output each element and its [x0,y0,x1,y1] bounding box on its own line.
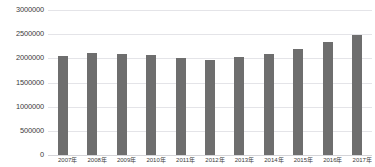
bar [117,54,127,155]
bar [293,49,303,155]
x-axis-tick-label: 2015年 [290,156,316,164]
y-axis-tick-label: 2000000 [0,54,44,62]
x-axis-tick-label: 2011年 [173,156,199,164]
bar [205,60,215,155]
x-axis-tick-label: 2014年 [261,156,287,164]
x-axis-tick-label: 2008年 [84,156,110,164]
bar [323,42,333,155]
y-axis-tick-label: 1500000 [0,79,44,87]
y-axis-tick-label: 2500000 [0,30,44,38]
x-axis-tick-label: 2009年 [114,156,140,164]
y-axis-tick-label: 0 [0,151,44,159]
bar-series [48,10,372,155]
bar [146,55,156,155]
y-axis-labels: 3000000250000020000001500000100000050000… [0,0,44,167]
x-axis-tick-label: 2010年 [143,156,169,164]
bar [352,35,362,155]
y-axis-tick-label: 1000000 [0,103,44,111]
bar [176,58,186,155]
bar-chart: 3000000250000020000001500000100000050000… [0,0,375,167]
bar [264,54,274,155]
bar [87,53,97,155]
x-axis-tick-label: 2017年 [349,156,372,164]
bar [234,57,244,155]
x-axis-tick-label: 2012年 [202,156,228,164]
x-axis-tick-label: 2016年 [320,156,346,164]
x-axis-tick-label: 2013年 [231,156,257,164]
y-axis-tick-label: 3000000 [0,6,44,14]
x-axis-tick-label: 2007年 [55,156,81,164]
bar [58,56,68,155]
y-axis-tick-label: 500000 [0,127,44,135]
x-axis-labels: 2007年2008年2009年2010年2011年2012年2013年2014年… [48,156,372,167]
